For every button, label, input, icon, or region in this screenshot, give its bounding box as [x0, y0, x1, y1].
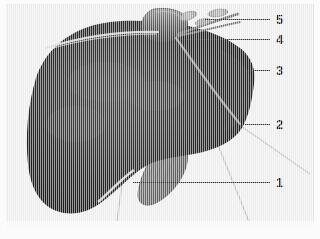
callout-4: 4	[276, 33, 283, 46]
figure-root: 12345	[0, 0, 320, 239]
leader-line-3	[244, 70, 270, 71]
callout-5: 5	[276, 13, 283, 26]
superior-process	[141, 8, 187, 41]
figure-plate-inner	[6, 4, 314, 229]
leader-line-5	[205, 19, 270, 20]
liver-illustration	[6, 4, 314, 229]
callout-2: 2	[276, 118, 283, 131]
leader-line-2	[245, 124, 270, 125]
leader-line-1	[133, 182, 270, 183]
callout-1: 1	[276, 176, 283, 189]
callout-3: 3	[276, 64, 283, 77]
figure-plate	[6, 4, 314, 229]
leader-line-4	[178, 39, 270, 40]
plate-bottom-margin	[6, 221, 314, 229]
